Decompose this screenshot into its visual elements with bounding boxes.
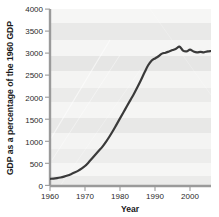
y-axis: 4000 3500 3000 2500 2000 1500 1000 500 0… (5, 5, 50, 190)
x-tick-label-1960: 1960 (41, 192, 59, 201)
background-bands (50, 9, 211, 186)
x-tick-label-1970: 1970 (76, 192, 94, 201)
chart-figure: 4000 3500 3000 2500 2000 1500 1000 500 0… (0, 0, 219, 217)
x-tick-label-1990: 1990 (146, 192, 164, 201)
y-tick-label-0: 0 (39, 182, 44, 191)
plot-background (50, 9, 211, 186)
y-tick-label-3000: 3000 (25, 49, 43, 58)
y-tick-label-2500: 2500 (25, 71, 43, 80)
y-tick-label-2000: 2000 (25, 94, 43, 103)
y-tick-label-4000: 4000 (25, 5, 43, 14)
y-tick-label-500: 500 (30, 160, 44, 169)
x-tick-label-1980: 1980 (111, 192, 129, 201)
y-tick-label-1000: 1000 (25, 138, 43, 147)
y-tick-label-1500: 1500 (25, 116, 43, 125)
x-axis: 1960 1970 1980 1990 2000 Year (41, 186, 211, 214)
x-tick-label-2000: 2000 (181, 192, 199, 201)
gdp-line-chart: 4000 3500 3000 2500 2000 1500 1000 500 0… (0, 0, 219, 217)
x-axis-title: Year (121, 204, 140, 214)
y-tick-label-3500: 3500 (25, 27, 43, 36)
y-axis-title: GDP as a percentage of the 1960 GDP (5, 21, 15, 175)
